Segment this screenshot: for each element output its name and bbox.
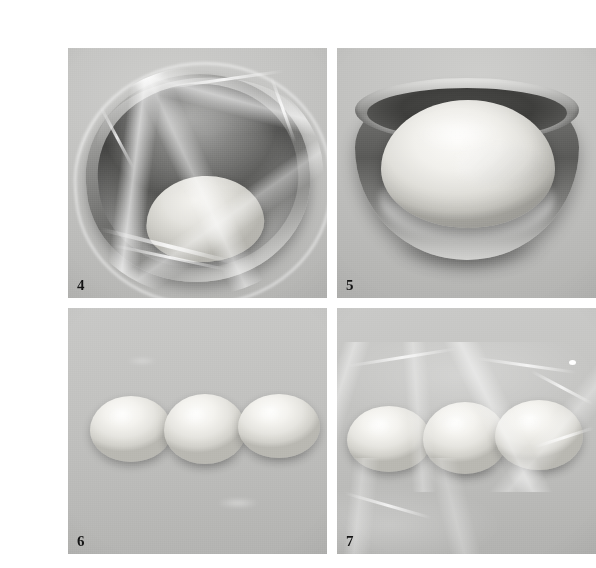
surface-highlight [120,356,164,366]
surface-highlight [208,496,268,510]
photo-panel-5[interactable]: 5 [337,48,596,298]
dough-ball [90,396,172,462]
dough-ball [238,394,320,458]
dough-ball [347,406,431,472]
panel-number-label: 4 [77,278,85,293]
wrap-specular-highlight [569,360,576,365]
panel-number-label: 7 [346,534,354,549]
panel-5-scene [337,48,596,298]
wrap-fold-crease [477,357,576,374]
panel-7-scene [337,308,596,554]
photo-panel-6[interactable]: 6 [68,308,327,554]
wrap-fold-crease [344,492,431,520]
dough-crease [457,144,543,186]
photo-panel-4[interactable]: 4 [68,48,327,298]
wrap-fold-crease [347,347,456,367]
panel-number-label: 6 [77,534,85,549]
dough-ball [495,400,583,470]
dough-ball [164,394,246,464]
panel-4-scene [68,48,327,298]
panel-6-scene [68,308,327,554]
photo-panel-7[interactable]: 7 [337,308,596,554]
panel-number-label: 5 [346,278,354,293]
